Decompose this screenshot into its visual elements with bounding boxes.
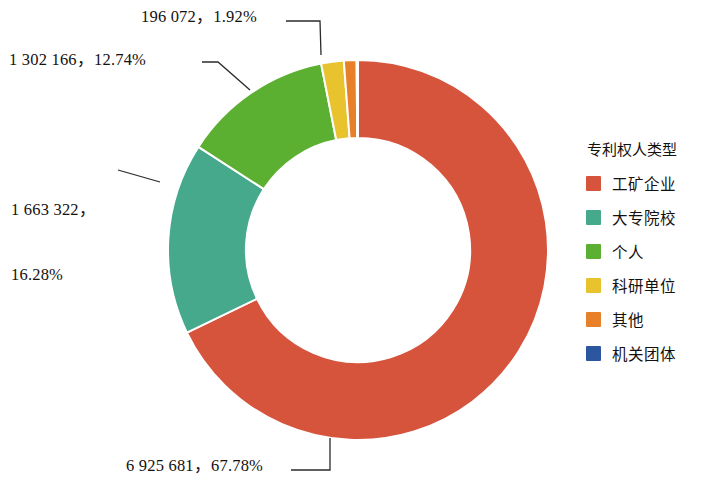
legend-item-label: 机关团体 xyxy=(612,342,676,364)
legend-swatch-icon xyxy=(586,244,601,259)
legend-swatch-icon xyxy=(586,312,601,327)
callout-label-dazhuan-line1: 1 663 322， xyxy=(11,199,96,221)
callout-label-dazhuan-line2: 16.28% xyxy=(11,264,96,286)
legend-swatch-icon xyxy=(586,278,601,293)
legend-item[interactable]: 科研单位 xyxy=(586,274,714,296)
legend-item[interactable]: 大专院校 xyxy=(586,206,714,228)
legend-title: 专利权人类型 xyxy=(587,138,714,159)
legend-item[interactable]: 工矿企业 xyxy=(586,172,714,194)
legend-item[interactable]: 机关团体 xyxy=(586,342,714,364)
legend-item-label: 科研单位 xyxy=(612,274,676,296)
leader-line-geren xyxy=(202,62,250,90)
donut-chart: 196 072，1.92% 1 302 166，12.74% 1 663 322… xyxy=(0,0,715,486)
legend-item[interactable]: 其他 xyxy=(586,308,714,330)
legend-swatch-icon xyxy=(586,210,601,225)
legend-swatch-icon xyxy=(586,346,601,361)
donut-slices xyxy=(168,60,548,440)
leader-line-gongkuang xyxy=(291,438,330,470)
legend: 专利权人类型 工矿企业大专院校个人科研单位其他机关团体 xyxy=(586,138,714,376)
legend-item[interactable]: 个人 xyxy=(586,240,714,262)
callout-label-geren: 1 302 166，12.74% xyxy=(9,49,146,71)
leader-line-keyan xyxy=(286,21,321,55)
callout-label-gongkuang: 6 925 681，67.78% xyxy=(126,455,263,477)
legend-item-label: 大专院校 xyxy=(612,206,676,228)
callout-label-dazhuan: 1 663 322， 16.28% xyxy=(11,155,96,329)
legend-item-label: 其他 xyxy=(612,308,644,330)
legend-item-label: 个人 xyxy=(612,240,644,262)
legend-swatch-icon xyxy=(586,176,601,191)
donut-slice[interactable] xyxy=(357,60,358,138)
legend-items: 工矿企业大专院校个人科研单位其他机关团体 xyxy=(586,172,714,364)
legend-item-label: 工矿企业 xyxy=(612,172,676,194)
leader-line-dazhuan xyxy=(118,170,160,182)
callout-label-keyan: 196 072，1.92% xyxy=(141,6,257,28)
